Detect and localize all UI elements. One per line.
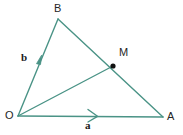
vertex-label-a: A <box>167 111 174 122</box>
triangle-diagram-canvas <box>0 0 183 135</box>
segment-OB <box>18 19 58 116</box>
vertex-label-b: B <box>54 3 61 14</box>
vector-label-a: a <box>85 120 91 131</box>
segment-OM <box>18 66 113 116</box>
point-marker-M <box>110 63 115 68</box>
geometry-figure: O B A M a b <box>0 0 183 135</box>
arrowhead-ob-icon <box>37 55 42 64</box>
vertex-label-m: M <box>119 47 128 58</box>
vector-label-b: b <box>21 52 27 63</box>
segment-OA <box>18 116 163 117</box>
vertex-label-o: O <box>5 110 14 121</box>
